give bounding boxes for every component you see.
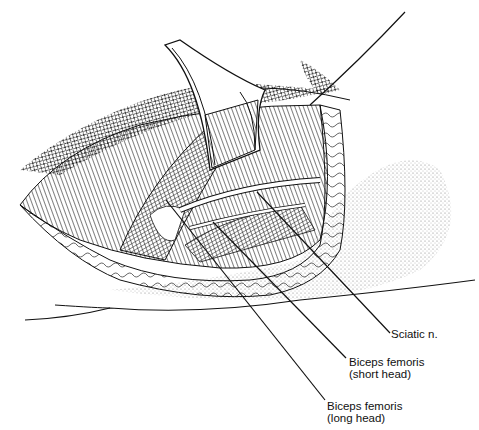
label-text: Biceps femoris: [327, 400, 402, 412]
anatomical-illustration: Sciatic n. Biceps femoris (short head) B…: [0, 0, 479, 430]
label-biceps-long-head: Biceps femoris (long head): [327, 400, 402, 424]
label-text: (short head): [349, 368, 424, 380]
label-text: (long head): [327, 412, 402, 424]
label-biceps-short-head: Biceps femoris (short head): [349, 356, 424, 380]
label-text: Sciatic n.: [391, 328, 438, 340]
label-text: Biceps femoris: [349, 356, 424, 368]
label-sciatic-nerve: Sciatic n.: [391, 328, 438, 340]
